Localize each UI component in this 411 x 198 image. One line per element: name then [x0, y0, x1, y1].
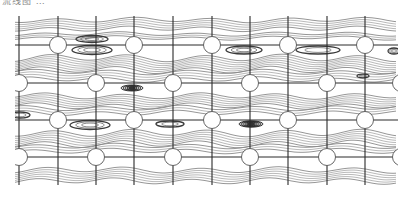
streamline — [15, 17, 396, 23]
tube-cylinder — [88, 149, 105, 166]
vortex-core — [128, 87, 136, 89]
streamline — [15, 178, 396, 185]
tube-cylinder — [50, 37, 67, 54]
tube-cylinder — [165, 75, 182, 92]
tube-cylinder — [319, 75, 336, 92]
streamline — [15, 169, 396, 176]
tube-cylinder — [204, 37, 221, 54]
tube-cylinder — [393, 75, 410, 92]
tube-cylinder — [319, 149, 336, 166]
tube-cylinder — [88, 75, 105, 92]
streamline — [15, 26, 396, 32]
vertical-grid-lines — [19, 16, 365, 185]
tube-bank-streamline-figure — [0, 0, 411, 198]
vortex-contour — [76, 122, 105, 128]
streamline — [15, 148, 396, 154]
streamline — [15, 72, 396, 78]
streamline — [15, 167, 396, 174]
tube-cylinder — [357, 37, 374, 54]
tube-cylinder — [11, 149, 28, 166]
vortex-contour — [162, 122, 179, 126]
vortex-contour — [14, 113, 26, 117]
vortex-contour — [83, 48, 100, 52]
vortex-contour — [78, 47, 107, 53]
streamline — [15, 74, 396, 80]
vortex-contour — [236, 48, 251, 51]
vortex-contour — [296, 46, 340, 54]
tube-cylinder — [165, 149, 182, 166]
tube-cylinder — [280, 112, 297, 129]
tube-cylinder — [242, 149, 259, 166]
tube-cylinder — [242, 75, 259, 92]
tube-cylinder — [280, 37, 297, 54]
tube-cylinder — [50, 112, 67, 129]
tube-cylinder — [126, 112, 143, 129]
tube-cylinder — [11, 75, 28, 92]
tube-cylinder — [393, 149, 410, 166]
tube-cylinder — [204, 112, 221, 129]
streamline — [15, 129, 396, 137]
streamline — [15, 105, 396, 111]
streamline — [15, 131, 396, 139]
horizontal-grid-lines — [15, 45, 398, 157]
vortex-contour — [391, 50, 396, 53]
streamline — [15, 93, 396, 100]
vortex-core — [247, 123, 255, 126]
tube-cylinder — [126, 37, 143, 54]
tube-cylinder — [357, 112, 374, 129]
